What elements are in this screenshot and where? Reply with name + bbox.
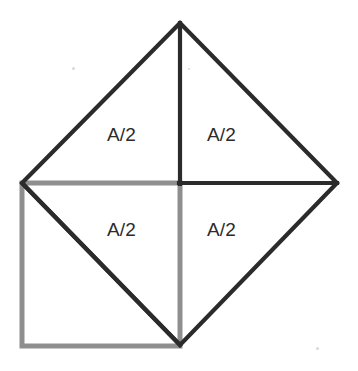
- diagonal-gray-square-line: [23, 184, 180, 345]
- area-label-bottom-right: A/2: [207, 219, 236, 241]
- area-label-top-right: A/2: [207, 124, 236, 146]
- diagram-canvas: g g A/2 A/2 A/2 A/2: [0, 0, 358, 371]
- area-label-bottom-left: A/2: [107, 219, 136, 241]
- area-label-top-left: A/2: [107, 124, 136, 146]
- scan-speck: [72, 67, 75, 70]
- scan-speck: [188, 68, 190, 70]
- scan-speck: [316, 347, 319, 350]
- geometric-figure: [0, 0, 358, 371]
